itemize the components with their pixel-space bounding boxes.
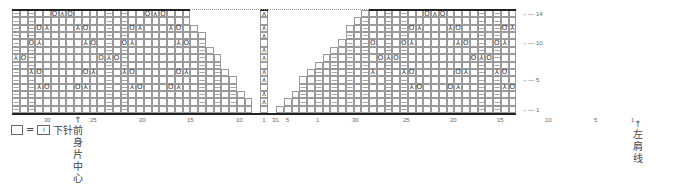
chart-cell [144,32,152,39]
chart-cell [392,84,400,91]
chart-cell [323,106,331,113]
chart-cell [485,47,493,54]
chart-cell [485,84,493,91]
chart-cell [509,17,517,24]
chart-cell [128,47,136,54]
legend-meaning: 下针 [53,122,73,137]
purl-icon: — [478,106,486,112]
purl-icon: — [121,84,129,90]
chart-cell [97,84,105,91]
yarn-over-icon: O [408,69,416,76]
center-cell [260,39,268,46]
chart-cell [470,32,478,39]
chart-cell [229,106,237,113]
decrease-icon: ⅄ [408,40,416,47]
chart-cell [167,69,175,76]
chart-cell [20,106,28,113]
chart-cell [43,17,51,24]
purl-icon: — [361,40,369,46]
decrease-icon: ⅄ [82,40,90,47]
chart-cell [439,17,447,24]
center-double-decrease-icon: ⋏ [260,25,268,32]
center-double-decrease-icon: ⋏ [260,69,268,76]
chart-cell [431,47,439,54]
purl-icon: — [478,10,486,16]
chart-cell [82,10,90,17]
yarn-over-icon: O [183,40,191,47]
purl-icon: — [478,84,486,90]
chart-cell [470,76,478,83]
chart-cell [66,69,74,76]
purl-icon: — [105,10,113,16]
purl-icon: — [346,91,354,97]
purl-icon: — [330,99,338,105]
chart-cell [501,54,509,61]
chart-cell [501,106,509,113]
chart-cell [354,69,362,76]
chart-cell [408,32,416,39]
chart-cell [245,106,253,113]
chart-cell [439,69,447,76]
chart-cell [90,32,98,39]
yarn-over-icon: O [144,11,152,18]
chart-cell [59,32,67,39]
chart-cell [66,32,74,39]
right-stitch-label: 10 [545,117,552,123]
chart-cell [485,10,493,17]
chart-cell [470,62,478,69]
yarn-over-icon: O [74,84,82,91]
purl-icon: — [28,91,36,97]
legend-equals: = [26,124,34,135]
knit-symbol-icon: I [37,125,50,135]
yarn-over-icon: O [35,25,43,32]
chart-cell [392,76,400,83]
chart-cell [462,76,470,83]
chart-cell [82,76,90,83]
yarn-over-icon: O [509,84,517,91]
purl-icon: — [315,84,323,90]
yarn-over-icon: O [454,69,462,76]
chart-cell [377,106,385,113]
right-stitch-label: 30 [352,117,359,123]
purl-icon: — [361,69,369,75]
chart-cell [136,62,144,69]
annotation-char: 前 [72,125,84,137]
annotation-char: 肩 [632,141,644,153]
chart-cell [377,39,385,46]
chart-cell [59,69,67,76]
top-border-right [369,9,516,11]
purl-icon: — [315,99,323,105]
chart-cell [152,25,160,32]
decrease-icon: ⅄ [501,84,509,91]
purl-icon: — [493,54,501,60]
purl-icon: — [198,47,206,53]
chart-cell [276,106,284,113]
purl-icon: — [346,62,354,68]
chart-cell [354,106,362,113]
chart-cell [423,54,431,61]
chart-cell [20,69,28,76]
chart-cell [183,106,191,113]
chart-cell [377,69,385,76]
purl-icon: — [105,25,113,31]
chart-cell [423,25,431,32]
purl-icon: — [12,77,20,83]
chart-cell [439,76,447,83]
chart-cell [167,54,175,61]
chart-cell [501,76,509,83]
chart-cell [323,76,331,83]
purl-icon: — [105,84,113,90]
chart-cell [159,17,167,24]
top-border-left [12,9,190,11]
purl-icon: — [400,106,408,112]
left-stitch-label: 5 [286,117,289,123]
chart-cell [439,32,447,39]
purl-icon: — [28,54,36,60]
chart-cell [454,17,462,24]
chart-cell [408,10,416,17]
chart-cell [509,91,517,98]
purl-icon: — [105,106,113,112]
chart-cell [190,39,198,46]
chart-cell [447,98,455,105]
center-double-decrease-icon: ⋏ [260,47,268,54]
